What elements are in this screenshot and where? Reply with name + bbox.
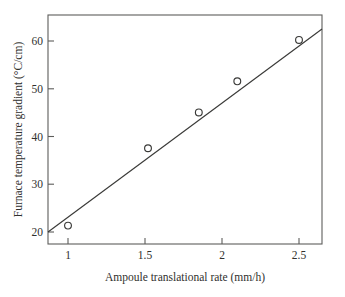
y-tick-label-50: 50 xyxy=(32,83,44,95)
x-tick-label-2-5: 2.5 xyxy=(292,249,307,261)
x-axis-title: Ampoule translational rate (mm/h) xyxy=(105,271,265,284)
y-tick-label-60: 60 xyxy=(32,35,44,47)
x-tick-label-1: 1 xyxy=(65,249,71,261)
y-tick-label-30: 30 xyxy=(32,178,44,190)
chart-figure: 20 30 40 50 60 1 1.5 2 2.5 Ampoule trans… xyxy=(0,0,345,297)
y-axis-title: Furnace temperature gradient (°C/cm) xyxy=(12,42,25,218)
scatter-plot: 20 30 40 50 60 1 1.5 2 2.5 Ampoule trans… xyxy=(0,0,345,297)
y-tick-label-40: 40 xyxy=(32,131,44,143)
x-tick-label-1-5: 1.5 xyxy=(138,249,153,261)
y-tick-label-20: 20 xyxy=(32,226,44,238)
x-tick-label-2: 2 xyxy=(219,249,225,261)
